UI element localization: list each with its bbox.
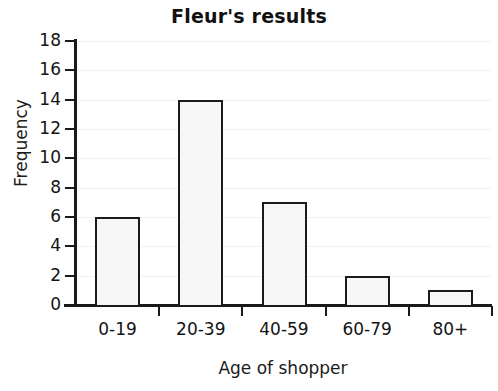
y-axis-line [74, 39, 77, 307]
y-axis-tick-label: 4 [18, 237, 61, 254]
x-axis-tick-mark [408, 306, 410, 316]
gridline [76, 129, 492, 130]
gridline [76, 100, 492, 101]
x-axis-tick-label: 20-39 [159, 320, 242, 338]
y-axis-tick-label: 14 [18, 91, 61, 108]
gridline [76, 70, 492, 71]
y-axis-tick-label: 8 [18, 179, 61, 196]
gridline [76, 188, 492, 189]
x-axis-tick-label: 80+ [409, 320, 492, 338]
chart-title: Fleur's results [0, 5, 498, 27]
x-axis-title: Age of shopper [76, 358, 490, 378]
y-axis-tick-label: 2 [18, 267, 61, 284]
bar [95, 217, 140, 305]
y-axis-tick-label: 12 [18, 120, 61, 137]
y-axis-title: Frequency [11, 63, 31, 223]
y-axis-tick-label: 10 [18, 149, 61, 166]
x-axis-tick-label: 40-59 [242, 320, 325, 338]
x-axis-tick-label: 0-19 [76, 320, 159, 338]
x-axis-tick-label: 60-79 [326, 320, 409, 338]
x-axis-tick-mark [325, 306, 327, 316]
y-axis-tick-label: 6 [18, 208, 61, 225]
gridline [76, 41, 492, 42]
x-axis-tick-mark [491, 306, 493, 316]
bar [262, 202, 307, 305]
y-axis-tick-label: 18 [18, 32, 61, 49]
gridline [76, 158, 492, 159]
y-axis-tick-label: 0 [18, 296, 61, 313]
bar-chart-figure: Fleur's results Frequency Age of shopper… [0, 0, 498, 391]
x-axis-tick-mark [158, 306, 160, 316]
y-axis-tick-label: 16 [18, 61, 61, 78]
bar [178, 100, 223, 305]
bar [345, 276, 390, 305]
x-axis-tick-mark [241, 306, 243, 316]
bar [428, 290, 473, 305]
